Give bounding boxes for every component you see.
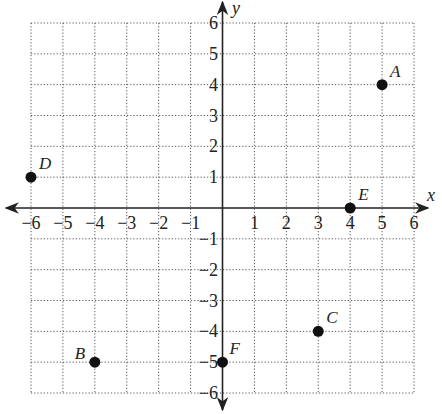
- y-tick-label: 1: [209, 167, 218, 187]
- x-tick-label: 6: [410, 213, 419, 233]
- point-marker: [313, 326, 324, 337]
- point-f: F: [217, 339, 241, 368]
- point-marker: [345, 203, 356, 214]
- y-tick-label: 5: [209, 44, 218, 64]
- y-tick-label: 4: [209, 75, 218, 95]
- point-label: C: [326, 308, 338, 327]
- y-tick-label: 2: [209, 136, 218, 156]
- point-label: D: [38, 154, 52, 173]
- x-tick-label: −2: [149, 213, 168, 233]
- point-a: A: [377, 62, 402, 91]
- x-tick-label: 4: [346, 213, 355, 233]
- x-tick-label: 3: [314, 213, 323, 233]
- y-tick-label: −1: [199, 229, 218, 249]
- x-tick-label: 1: [250, 213, 259, 233]
- x-tick-label: −1: [181, 213, 200, 233]
- axes: x y: [6, 0, 435, 410]
- point-marker: [26, 172, 37, 183]
- x-tick-labels: −6−5−4−3−2−1123456: [21, 213, 418, 233]
- x-tick-label: −3: [117, 213, 136, 233]
- y-tick-label: −5: [199, 352, 218, 372]
- x-tick-label: −4: [85, 213, 104, 233]
- point-label: B: [75, 344, 86, 363]
- point-marker: [217, 357, 228, 368]
- y-tick-label: −6: [199, 383, 218, 403]
- point-b: B: [75, 344, 101, 368]
- point-label: E: [357, 185, 369, 204]
- y-tick-label: −4: [199, 321, 218, 341]
- point-marker: [377, 79, 388, 90]
- point-d: D: [26, 154, 53, 183]
- x-tick-label: −6: [21, 213, 40, 233]
- y-tick-label: −3: [199, 291, 218, 311]
- y-axis-label: y: [230, 0, 240, 18]
- x-tick-label: 5: [378, 213, 387, 233]
- y-tick-label: −2: [199, 260, 218, 280]
- coordinate-plane: x y −6−5−4−3−2−1123456 654321−1−2−3−4−5−…: [0, 0, 442, 414]
- y-tick-label: 3: [209, 106, 218, 126]
- x-tick-label: 2: [282, 213, 291, 233]
- point-e: E: [345, 185, 370, 214]
- x-tick-label: −5: [53, 213, 72, 233]
- point-label: F: [229, 339, 241, 358]
- point-marker: [89, 357, 100, 368]
- point-c: C: [313, 308, 339, 337]
- y-tick-label: 6: [209, 13, 218, 33]
- x-axis-label: x: [426, 185, 435, 205]
- point-label: A: [389, 62, 401, 81]
